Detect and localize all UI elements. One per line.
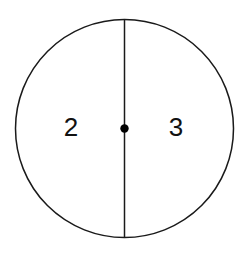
region-label-right: 3 [169,112,183,142]
region-label-left: 2 [64,112,78,142]
figure-container: 2 3 [0,0,246,255]
circle-diagram: 2 3 [0,0,246,255]
center-dot [120,124,128,132]
